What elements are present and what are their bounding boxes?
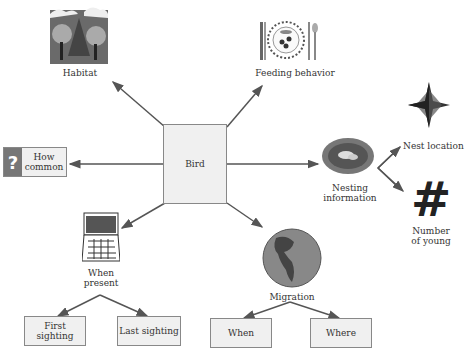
node-label-nesting: Nesting information xyxy=(322,183,378,203)
how-common-node[interactable]: ? How common xyxy=(3,147,67,177)
calendar-icon xyxy=(82,211,120,263)
how-common-line1: How xyxy=(34,152,55,162)
compass-star-icon xyxy=(408,82,450,128)
leaf-first-sighting[interactable]: First sighting xyxy=(24,316,86,346)
bird-concept-map: Bird Habitat Feeding behavior ? How comm… xyxy=(0,0,465,353)
node-label-when-present: When present xyxy=(76,268,126,288)
nest-icon xyxy=(320,136,376,176)
leaf-last-sighting[interactable]: Last sighting xyxy=(117,316,181,346)
forest-icon xyxy=(48,4,110,66)
node-label-number-of-young: Number of young xyxy=(408,226,454,246)
place-setting-icon xyxy=(258,18,318,64)
central-node-bird[interactable]: Bird xyxy=(163,124,227,204)
leaf-migration-where[interactable]: Where xyxy=(310,318,372,348)
node-label-migration: Migration xyxy=(262,292,322,302)
leaf-migration-when[interactable]: When xyxy=(210,318,272,348)
node-label-habitat: Habitat xyxy=(54,68,106,78)
central-node-label: Bird xyxy=(185,159,205,169)
how-common-line2: common xyxy=(25,162,64,172)
hash-icon: # xyxy=(410,176,452,222)
globe-icon xyxy=(262,228,322,288)
question-mark-icon: ? xyxy=(4,148,22,176)
node-label-feeding-behavior: Feeding behavior xyxy=(255,68,335,78)
node-label-nest-location: Nest location xyxy=(403,141,463,151)
